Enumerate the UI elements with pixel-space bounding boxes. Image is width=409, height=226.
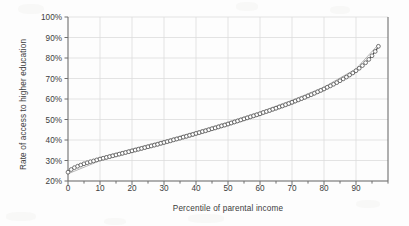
chart-figure: 20%30%40%50%60%70%80%90%100% 01020304050… xyxy=(0,0,409,226)
x-tick-label: 20 xyxy=(117,184,147,193)
band-line xyxy=(68,44,378,170)
x-axis-title: Percentile of parental income xyxy=(68,204,388,213)
x-tick-label: 0 xyxy=(53,184,83,193)
y-tick-label: 100% xyxy=(22,13,62,22)
y-tick-label: 80% xyxy=(22,54,62,63)
axis-ticks xyxy=(65,17,389,185)
y-tick-label: 50% xyxy=(22,115,62,124)
x-tick-label: 30 xyxy=(149,184,179,193)
y-tick-label: 90% xyxy=(22,33,62,42)
x-tick-label: 80 xyxy=(309,184,339,193)
x-tick-label: 10 xyxy=(85,184,115,193)
data-markers xyxy=(66,44,380,174)
x-tick-label: 70 xyxy=(277,184,307,193)
y-axis-title: Rate of access to higher education xyxy=(19,20,28,190)
x-axis-tick-labels: 0102030405060708090 xyxy=(0,184,409,198)
x-tick-label: 50 xyxy=(213,184,243,193)
x-tick-label: 40 xyxy=(181,184,211,193)
y-tick-label: 60% xyxy=(22,95,62,104)
y-tick-label: 30% xyxy=(22,156,62,165)
x-tick-label: 60 xyxy=(245,184,275,193)
y-tick-label: 70% xyxy=(22,74,62,83)
x-tick-label: 90 xyxy=(341,184,371,193)
y-tick-label: 40% xyxy=(22,136,62,145)
